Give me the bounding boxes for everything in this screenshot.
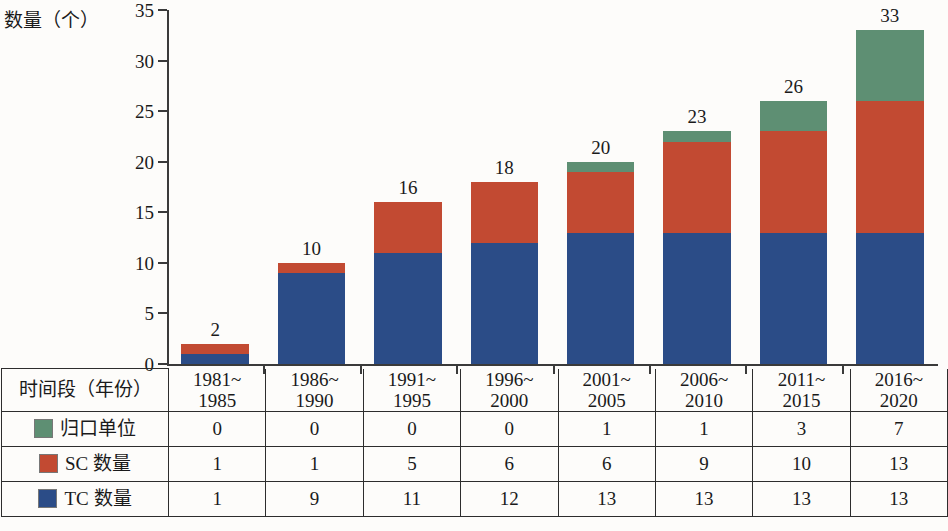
table-cell: 5 — [363, 447, 460, 482]
bar-segment — [663, 131, 730, 141]
table-cell: 1 — [558, 412, 655, 447]
y-tick-mark — [158, 363, 167, 365]
table-cell: 0 — [461, 412, 558, 447]
bar-total-label: 18 — [471, 158, 538, 177]
bar-stack: 33 — [856, 30, 923, 364]
bar-total-label: 26 — [760, 77, 827, 96]
y-tick-mark — [158, 60, 167, 62]
table-cell: 6 — [558, 447, 655, 482]
table-cell: 9 — [266, 482, 363, 517]
table-column-header: 1981~1985 — [169, 369, 266, 412]
table-column-header-line: 1986~ — [266, 369, 362, 390]
bar-segment — [567, 172, 634, 233]
y-tick-label: 35 — [135, 1, 154, 20]
table-column-header-line: 2010 — [656, 390, 752, 411]
y-axis-title: 数量（个） — [4, 5, 99, 32]
table-row-legend-label: SC 数量 — [2, 447, 169, 482]
table-cell: 13 — [655, 482, 752, 517]
table-column-header: 1991~1995 — [363, 369, 460, 412]
table-column-header: 2011~2015 — [753, 369, 850, 412]
table-column-header-line: 1995 — [364, 390, 460, 411]
table-corner-label: 时间段（年份） — [2, 369, 169, 412]
y-tick-label: 10 — [135, 253, 154, 272]
bar-segment — [760, 101, 827, 131]
legend-swatch-icon — [38, 489, 57, 508]
table-column-header-line: 1990 — [266, 390, 362, 411]
y-tick-label: 30 — [135, 51, 154, 70]
y-tick-mark — [158, 161, 167, 163]
plot-area: 05101520253035 210161820232633 — [167, 10, 938, 366]
table-cell: 10 — [753, 447, 850, 482]
table-column-header: 2001~2005 — [558, 369, 655, 412]
table-column-header-line: 2011~ — [753, 369, 849, 390]
table-cell: 0 — [266, 412, 363, 447]
bar-segment — [374, 253, 441, 364]
table-column-header-line: 2015 — [753, 390, 849, 411]
table-row: SC 数量1156691013 — [2, 447, 948, 482]
table-cell: 1 — [655, 412, 752, 447]
legend-label-text: TC 数量 — [64, 488, 131, 509]
bar-stack: 10 — [278, 263, 345, 364]
bar-segment — [278, 263, 345, 273]
bar-segment — [567, 233, 634, 364]
table-cell: 6 — [461, 447, 558, 482]
bar-segment — [471, 243, 538, 364]
legend-label-text: SC 数量 — [65, 453, 131, 474]
y-axis-line — [167, 10, 169, 366]
bar-segment — [856, 30, 923, 101]
y-tick-mark — [158, 312, 167, 314]
data-table: 时间段（年份）1981~19851986~19901991~19951996~2… — [1, 368, 948, 517]
table-column-header: 1996~2000 — [461, 369, 558, 412]
bar-segment — [663, 142, 730, 233]
table-row-legend-label: TC 数量 — [2, 482, 169, 517]
table-row: TC 数量19111213131313 — [2, 482, 948, 517]
table-cell: 9 — [655, 447, 752, 482]
y-tick-label: 20 — [135, 152, 154, 171]
y-tick-mark — [158, 9, 167, 11]
bar-stack: 18 — [471, 182, 538, 364]
table-row-legend-label: 归口单位 — [2, 412, 169, 447]
y-tick-mark — [158, 211, 167, 213]
y-tick-mark — [158, 262, 167, 264]
table-cell: 13 — [753, 482, 850, 517]
bar-segment — [760, 131, 827, 232]
table-cell: 1 — [169, 482, 266, 517]
bar-total-label: 23 — [663, 107, 730, 126]
bar-total-label: 10 — [278, 239, 345, 258]
legend-label-text: 归口单位 — [60, 418, 136, 439]
table-row: 归口单位00001137 — [2, 412, 948, 447]
table-column-header-line: 2001~ — [559, 369, 655, 390]
table-cell: 13 — [558, 482, 655, 517]
table-cell: 0 — [169, 412, 266, 447]
table-header-row: 时间段（年份）1981~19851986~19901991~19951996~2… — [2, 369, 948, 412]
bar-stack: 16 — [374, 202, 441, 364]
table-column-header: 2006~2010 — [655, 369, 752, 412]
legend-swatch-icon — [34, 419, 53, 438]
bar-segment — [181, 354, 248, 364]
table-column-header-line: 1981~ — [169, 369, 265, 390]
bar-segment — [567, 162, 634, 172]
bar-segment — [663, 233, 730, 364]
bar-total-label: 16 — [374, 178, 441, 197]
table-cell: 7 — [850, 412, 947, 447]
table-cell: 13 — [850, 482, 947, 517]
table-column-header-line: 1996~ — [461, 369, 557, 390]
table-column-header: 1986~1990 — [266, 369, 363, 412]
bar-stack: 20 — [567, 162, 634, 364]
table-column-header-line: 2000 — [461, 390, 557, 411]
legend-swatch-icon — [39, 454, 58, 473]
bar-total-label: 2 — [181, 320, 248, 339]
bar-segment — [856, 233, 923, 364]
table-cell: 12 — [461, 482, 558, 517]
y-tick-label: 25 — [135, 102, 154, 121]
bar-segment — [471, 182, 538, 243]
bar-segment — [760, 233, 827, 364]
y-tick-label: 15 — [135, 203, 154, 222]
table-column-header-line: 2016~ — [851, 369, 947, 390]
bar-segment — [181, 344, 248, 354]
bar-stack: 2 — [181, 344, 248, 364]
bar-total-label: 33 — [856, 6, 923, 25]
bar-segment — [856, 101, 923, 232]
table-column-header-line: 1985 — [169, 390, 265, 411]
